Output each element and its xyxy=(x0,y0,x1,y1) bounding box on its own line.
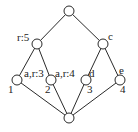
node-1 xyxy=(12,75,22,85)
label-1: 1 xyxy=(8,83,14,95)
label-d: d xyxy=(89,67,95,79)
label-a-r4: a,r:4 xyxy=(55,67,75,79)
label-3: 3 xyxy=(87,83,93,95)
edge-c-4 xyxy=(103,44,120,80)
edge-top-c xyxy=(69,11,103,44)
label-a-r3: a,r:3 xyxy=(24,67,44,79)
nodes xyxy=(12,6,125,123)
edges xyxy=(17,11,120,118)
lattice-diagram: r:5 c a,r:3 1 a,r:4 2 d 3 e 4 xyxy=(0,0,138,132)
label-4: 4 xyxy=(120,83,126,95)
node-bottom xyxy=(64,113,74,123)
edge-top-r5 xyxy=(37,11,69,44)
edge-2-bottom xyxy=(51,80,69,118)
edge-1-bottom xyxy=(17,80,69,118)
label-2: 2 xyxy=(45,83,51,95)
label-e: e xyxy=(119,64,124,76)
node-top xyxy=(64,6,74,16)
label-c: c xyxy=(108,30,113,42)
edge-4-bottom xyxy=(69,80,120,118)
labels: r:5 c a,r:3 1 a,r:4 2 d 3 e 4 xyxy=(8,30,126,95)
node-c xyxy=(98,39,108,49)
label-r5: r:5 xyxy=(17,31,30,43)
edge-3-bottom xyxy=(69,80,86,118)
node-r5 xyxy=(32,39,42,49)
